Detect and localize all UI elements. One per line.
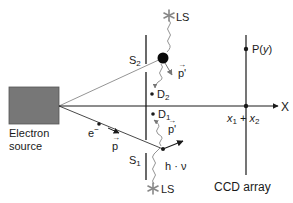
- slit-s1-label: S1: [129, 155, 141, 168]
- scattering-particle-top: [158, 53, 169, 64]
- double-slit-diagram: Electron source S2 S1 LS LS D2 D1 p' p' …: [0, 0, 293, 203]
- photon-wave-top-out: [155, 64, 163, 88]
- photon-wave-top-in: [167, 20, 171, 52]
- point-p-y-label: P(y): [252, 44, 272, 55]
- center-x1-plus-x2-label: x1 + x2: [227, 113, 259, 126]
- detector-d2-dot: [150, 92, 154, 96]
- center-dot: [244, 104, 248, 108]
- electron-source-label-1: Electron: [9, 128, 49, 139]
- photon-energy-label: h · ν: [165, 161, 186, 172]
- photon-wave-bottom-out: [154, 120, 162, 146]
- light-source-bottom-label: LS: [161, 184, 174, 195]
- electron-source-box: [9, 87, 59, 124]
- x-axis-label: X: [281, 101, 289, 113]
- photon-wave-bottom-in: [153, 148, 161, 184]
- diagram-graphics: [0, 0, 293, 203]
- momentum-p-prime-top-arrow: [165, 63, 172, 75]
- light-source-top-star-icon: [164, 10, 174, 21]
- momentum-p-label: p: [112, 141, 118, 152]
- slit-s2-label: S2: [129, 55, 141, 68]
- ccd-array-label: CCD array: [214, 181, 271, 193]
- light-source-top-label: LS: [176, 12, 189, 23]
- ray-to-s1: [59, 106, 163, 149]
- point-p-y-dot: [244, 47, 248, 51]
- momentum-p-prime-bottom-label: p': [168, 124, 176, 135]
- detector-d2-label: D2: [157, 89, 169, 102]
- electron-source-label-2: source: [9, 141, 42, 152]
- light-source-bottom-star-icon: [148, 183, 158, 194]
- momentum-p-prime-bottom-arrow: [163, 141, 183, 149]
- ray-to-s2: [59, 58, 163, 106]
- electron-label: e−: [88, 126, 99, 139]
- detector-d1-dot: [151, 112, 155, 116]
- momentum-p-prime-top-label: p': [178, 68, 186, 79]
